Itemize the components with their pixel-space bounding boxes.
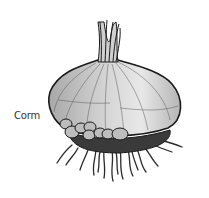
corm-illustration — [0, 0, 209, 198]
corm-diagram: Corm — [0, 0, 209, 198]
